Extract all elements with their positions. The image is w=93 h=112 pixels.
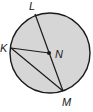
center-point-n — [47, 51, 51, 55]
label-k: K — [0, 42, 8, 54]
label-m: M — [62, 96, 72, 108]
circle-diagram: L K N M — [0, 0, 93, 112]
label-l: L — [29, 0, 35, 12]
label-n: N — [55, 48, 63, 60]
